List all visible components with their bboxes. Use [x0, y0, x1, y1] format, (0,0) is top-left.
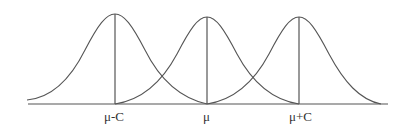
label-mu-plus-c: μ+C [289, 109, 312, 124]
distribution-diagram: μ-C μ μ+C [0, 0, 407, 130]
curve-right [207, 17, 381, 104]
curve-left [27, 14, 207, 104]
label-mu: μ [203, 109, 210, 124]
label-mu-minus-c: μ-C [104, 109, 124, 124]
